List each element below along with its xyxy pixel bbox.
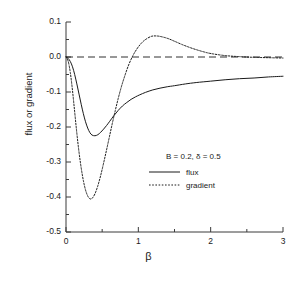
x-tick-label: 0 xyxy=(51,236,81,246)
data-series-group xyxy=(66,36,283,199)
x-tick-label: 3 xyxy=(268,236,297,246)
series-line-flux xyxy=(66,57,283,136)
figure-container: 0.10.0-0.1-0.2-0.3-0.4-0.5 0123 flux or … xyxy=(0,0,297,282)
legend-line-samples xyxy=(149,172,180,185)
x-axis-title: β xyxy=(0,250,297,262)
legend-annotation: B = 0.2, δ = 0.5 xyxy=(166,152,221,161)
y-tick-label: -0.4 xyxy=(28,191,61,201)
y-tick-label: 0.1 xyxy=(28,16,61,26)
x-tick-label: 2 xyxy=(196,236,226,246)
legend-label-gradient: gradient xyxy=(186,181,215,190)
legend-label-flux: flux xyxy=(186,168,198,177)
series-line-gradient xyxy=(66,36,283,199)
y-tick-label: -0.5 xyxy=(28,226,61,236)
y-axis-title: flux or gradient xyxy=(23,73,34,136)
x-tick-label: 1 xyxy=(123,236,153,246)
y-axis-title-wrapper: flux or gradient xyxy=(18,49,36,159)
axis-frame xyxy=(66,22,283,232)
axis-ticks xyxy=(66,22,283,232)
